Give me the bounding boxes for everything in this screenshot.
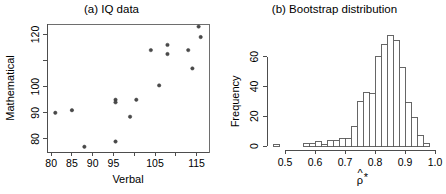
y-axis-title: Mathematical <box>4 55 16 120</box>
histogram-bar <box>327 140 333 146</box>
histogram-bar <box>387 36 393 146</box>
histogram-bar <box>357 101 363 146</box>
data-point <box>187 48 190 51</box>
data-point <box>83 145 86 148</box>
data-point <box>114 140 117 143</box>
histogram-bar <box>315 142 321 146</box>
histogram-bar <box>333 140 339 146</box>
y-tick-label: 120 <box>29 26 41 44</box>
x-tick-label: 0.8 <box>368 156 383 168</box>
figure-container: (a) IQ data 80859095105115Verbal80901001… <box>0 0 446 194</box>
histogram-bar <box>405 103 411 146</box>
panel-iq-scatter: (a) IQ data 80859095105115Verbal80901001… <box>0 0 223 194</box>
y-tick-label: 100 <box>29 78 41 96</box>
histogram-bar <box>363 92 369 146</box>
y-tick-label: 80 <box>29 133 41 145</box>
data-point <box>135 98 138 101</box>
x-tick-label: 0.6 <box>308 156 323 168</box>
histogram-bar <box>375 57 381 146</box>
histogram-bar <box>273 145 279 146</box>
histogram-bar <box>393 40 399 146</box>
histogram-bar <box>411 118 417 146</box>
histogram-bar <box>303 143 309 146</box>
data-point <box>114 101 117 104</box>
data-point <box>149 48 152 51</box>
panel-bootstrap-histogram: (b) Bootstrap distribution 0.50.60.70.80… <box>223 0 446 194</box>
x-tick-label: 105 <box>146 157 164 169</box>
y-tick-label: 40 <box>248 81 260 93</box>
histogram-bar <box>369 94 375 146</box>
y-tick-label: 90 <box>29 107 41 119</box>
x-axis-title: ρ^* <box>357 167 369 186</box>
histogram-bar <box>321 145 327 146</box>
x-tick-label: 115 <box>188 157 205 169</box>
y-tick-label: 60 <box>248 51 260 63</box>
x-tick-label: 1.0 <box>428 156 443 168</box>
histogram-bar <box>345 139 351 146</box>
x-tick-label: 0.7 <box>338 156 353 168</box>
x-tick-label: 80 <box>45 157 57 169</box>
plot-frame <box>47 24 209 152</box>
data-point <box>54 111 57 114</box>
y-tick-label: 20 <box>248 110 260 122</box>
data-point <box>157 84 160 87</box>
data-point <box>166 43 169 46</box>
histogram-bar <box>423 143 429 146</box>
y-axis-title: Frequency <box>229 75 241 127</box>
data-point <box>166 52 169 55</box>
x-tick-label: 0.9 <box>398 156 413 168</box>
y-tick-label: 0 <box>248 143 260 149</box>
histogram-bar <box>417 136 423 146</box>
x-tick-label: 85 <box>66 157 78 169</box>
data-point <box>199 35 202 38</box>
x-tick-label: 95 <box>108 157 120 169</box>
histogram-bar <box>381 45 387 146</box>
data-point <box>197 25 200 28</box>
histogram-bar <box>309 143 315 146</box>
star-accent: * <box>364 171 369 183</box>
histogram-bar <box>339 139 345 146</box>
histogram-bar <box>351 127 357 146</box>
x-tick-label: 0.5 <box>278 156 293 168</box>
x-axis-title: Verbal <box>112 173 143 185</box>
hat-accent: ^ <box>357 167 363 179</box>
x-tick-label: 90 <box>87 157 99 169</box>
scatter-plot-svg: 80859095105115Verbal8090100120Mathematic… <box>0 0 223 194</box>
data-point <box>70 109 73 112</box>
histogram-svg: 0.50.60.70.80.91.0ρ^*0204060Frequency <box>223 0 446 194</box>
data-point <box>191 67 194 70</box>
histogram-bar <box>399 67 405 146</box>
data-point <box>128 115 131 118</box>
